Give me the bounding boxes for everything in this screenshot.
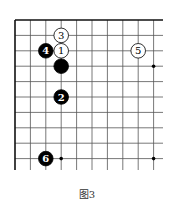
- hoshi-point: [152, 64, 156, 68]
- svg-text:4: 4: [42, 45, 49, 56]
- black-stone: [54, 59, 69, 74]
- black-stone-4: 4: [39, 44, 54, 59]
- go-board-diagram: 123456: [0, 0, 174, 185]
- figure-caption: 图3: [0, 186, 174, 201]
- hoshi-point: [152, 157, 156, 161]
- white-stone-3: 3: [54, 28, 69, 43]
- white-stone-5: 5: [131, 44, 146, 59]
- svg-text:5: 5: [135, 45, 141, 56]
- svg-text:6: 6: [42, 153, 49, 164]
- hoshi-point: [59, 157, 63, 161]
- svg-text:2: 2: [58, 92, 65, 103]
- black-stone-6: 6: [39, 151, 54, 166]
- svg-text:1: 1: [58, 45, 64, 56]
- white-stone-1: 1: [54, 44, 69, 59]
- black-stone-2: 2: [54, 90, 69, 105]
- svg-text:3: 3: [58, 30, 64, 41]
